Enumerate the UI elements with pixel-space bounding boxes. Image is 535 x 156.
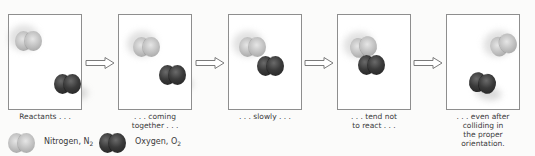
oxygen-molecule: [467, 71, 497, 95]
panel-tend-not: [337, 14, 411, 110]
caption-tend-not: . . . tend not to react . . .: [329, 112, 419, 130]
oxygen-molecule: [358, 55, 385, 75]
legend-oxygen: Oxygen, O2: [99, 134, 199, 152]
legend-label: Oxygen, O2: [135, 137, 181, 147]
caption-line: to react . . .: [329, 121, 419, 130]
nitrogen-molecule: [15, 31, 42, 51]
caption-reactants: Reactants . . .: [0, 112, 90, 121]
caption-even-after: . . . even after colliding in the proper…: [438, 112, 528, 148]
arrow-right-icon: [85, 57, 115, 69]
caption-slowly: . . . slowly . . .: [220, 112, 310, 121]
caption-line: together . . .: [110, 121, 200, 130]
nitrogen-molecule: [487, 31, 519, 59]
caption-line: the proper: [438, 130, 528, 139]
arrow-right-icon: [195, 57, 225, 69]
nitrogen-legend-icon: [8, 133, 35, 153]
legend-nitrogen: Nitrogen, N2: [8, 134, 108, 152]
legend-label: Nitrogen, N2: [44, 137, 93, 147]
oxygen-molecule: [54, 74, 81, 94]
caption-line: orientation.: [438, 139, 528, 148]
arrow-right-icon: [413, 57, 443, 69]
caption-coming-together: . . . coming together . . .: [110, 112, 200, 130]
caption-text: . . . slowly . . .: [239, 112, 291, 121]
oxygen-molecule: [159, 65, 186, 85]
oxygen-legend-icon: [99, 133, 126, 153]
nitrogen-molecule: [239, 37, 266, 57]
nitrogen-molecule: [133, 37, 160, 57]
panel-slowly: [228, 14, 302, 110]
oxygen-molecule: [257, 56, 284, 76]
panel-reactants: [8, 14, 82, 110]
caption-line: colliding in: [438, 121, 528, 130]
panel-coming-together: [118, 14, 192, 110]
caption-line: . . . tend not: [329, 112, 419, 121]
caption-line: . . . coming: [110, 112, 200, 121]
panel-even-after: [446, 14, 520, 110]
arrow-right-icon: [304, 57, 334, 69]
caption-line: . . . even after: [438, 112, 528, 121]
caption-text: Reactants . . .: [19, 112, 71, 121]
